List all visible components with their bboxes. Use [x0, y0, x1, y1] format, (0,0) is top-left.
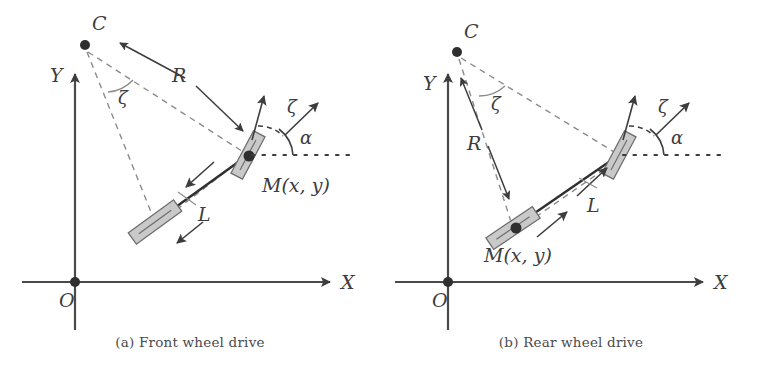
velocity-arrow-rear2-a: [177, 222, 203, 243]
radius-line-front-a: [88, 52, 248, 155]
velocity-arrow-rear-b: [537, 212, 567, 237]
figure-root: X Y O C ζ R: [0, 0, 761, 389]
caption-rear-wheel-drive: (b) Rear wheel drive: [381, 334, 761, 350]
alpha-arc-a: [279, 129, 293, 155]
alpha-label-b: α: [671, 127, 683, 148]
icr-dot-b: [452, 47, 462, 57]
point-m-label-a: M(x, y): [261, 174, 330, 196]
rear-wheel-a: [128, 200, 182, 244]
alpha-arc-b: [650, 129, 664, 155]
zeta-label-front-b: ζ: [658, 96, 669, 117]
x-axis-label-a: X: [339, 271, 356, 293]
origin-dot-b: [443, 277, 453, 287]
radius-construction-a: [87, 52, 251, 224]
icr-label-b: C: [464, 20, 479, 42]
diagram-svg-b: X Y O C ζ R: [381, 0, 761, 330]
alpha-label-a: α: [300, 127, 312, 148]
zeta-label-c-a: ζ: [118, 87, 129, 108]
origin-label-b: O: [432, 289, 448, 311]
origin-dot-a: [70, 277, 80, 287]
y-axis-label-b: Y: [423, 72, 438, 94]
panel-front-wheel-drive: X Y O C ζ R: [0, 0, 380, 330]
caption-front-wheel-drive: (a) Front wheel drive: [0, 334, 380, 350]
zeta-label-front-a: ζ: [287, 96, 298, 117]
point-m-label-b: M(x, y): [483, 244, 552, 266]
icr-dot-a: [80, 40, 90, 50]
zeta-label-c-b: ζ: [491, 93, 502, 114]
icr-label-a: C: [92, 12, 107, 34]
origin-label-a: O: [59, 289, 75, 311]
point-m-dot-b: [511, 223, 522, 234]
radius-arrow-a: [120, 43, 243, 131]
front-wheel-b: [602, 131, 636, 179]
radius-label-a: R: [171, 64, 186, 86]
wheelbase-label-b: L: [586, 194, 600, 216]
diagram-svg-a: X Y O C ζ R: [0, 0, 380, 330]
wheelbase-label-a: L: [197, 203, 211, 225]
panel-rear-wheel-drive: X Y O C ζ R: [381, 0, 761, 330]
radius-line-rear-a: [87, 52, 155, 222]
x-axis-label-b: X: [712, 271, 729, 293]
radius-line-front-b: [461, 58, 619, 155]
y-axis-label-a: Y: [50, 64, 65, 86]
radius-label-b: R: [466, 132, 481, 154]
